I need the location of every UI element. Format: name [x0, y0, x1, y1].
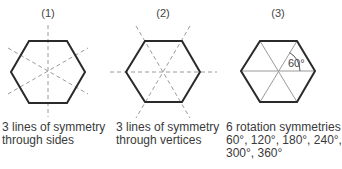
panel-1-label: (1) — [33, 7, 63, 19]
caption-line: through sides — [2, 134, 105, 147]
caption-line: 300°, 360° — [226, 147, 342, 160]
rotation-lines — [241, 41, 315, 102]
panel-2-graphic — [110, 26, 217, 118]
panel-3-caption: 6 rotation symmetries 60°, 120°, 180°, 2… — [226, 121, 342, 160]
panel-2-caption: 3 lines of symmetry through vertices — [116, 121, 219, 147]
panel-1-caption: 3 lines of symmetry through sides — [2, 121, 105, 147]
hexagon-1 — [11, 41, 85, 103]
angle-label-60: 60° — [288, 57, 305, 69]
panel-1-graphic — [8, 25, 88, 117]
panel-2-label: (2) — [148, 7, 178, 19]
panel-3-graphic — [241, 41, 315, 102]
caption-line: through vertices — [116, 134, 219, 147]
panel-3-label: (3) — [263, 7, 293, 19]
